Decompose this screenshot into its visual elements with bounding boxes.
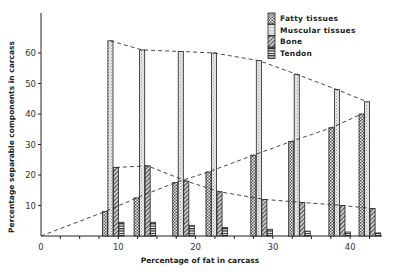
y-tick-label: 60 [25, 48, 36, 58]
y-tick-label: 50 [25, 79, 36, 89]
bar-bone [370, 209, 375, 236]
legend-swatch-fatty-tissues [268, 13, 275, 24]
bar-fatty-tissues [206, 172, 211, 236]
legend-label: Muscular tissues [280, 26, 356, 35]
bar-fatty-tissues [329, 128, 334, 236]
bar-tendon [376, 233, 381, 236]
bar-tendon [119, 222, 124, 236]
x-tick-label: 20 [190, 242, 201, 252]
legend-label: Fatty tissues [280, 14, 339, 23]
x-tick-label: 10 [113, 242, 124, 252]
x-tick-label: 30 [267, 242, 278, 252]
bar-fatty-tissues [102, 212, 107, 236]
bar-muscular-tissues [108, 41, 113, 236]
bar-bone [184, 181, 189, 236]
trend-line-muscular-tissues [110, 41, 367, 102]
bar-tendon [189, 225, 194, 236]
bar-tendon [345, 232, 350, 236]
bar-muscular-tissues [140, 50, 145, 236]
bar-muscular-tissues [178, 51, 183, 236]
legend: Fatty tissuesMuscular tissuesBoneTendon [268, 13, 356, 59]
legend-swatch-bone [268, 36, 275, 47]
bar-muscular-tissues [365, 102, 370, 236]
y-axis-title: Percentage separable components in carca… [7, 41, 16, 233]
bar-bone [300, 202, 305, 236]
x-axis-title: Percentage of fat in carcass [141, 256, 260, 265]
x-tick-label: 40 [345, 242, 356, 252]
trend-line-fatty-tissues [41, 114, 362, 236]
bar-fatty-tissues [289, 141, 294, 236]
bar-muscular-tissues [211, 53, 216, 236]
chart: 102030405060010203040 Fatty tissuesMuscu… [0, 0, 394, 274]
legend-swatch-tendon [268, 48, 275, 59]
bar-muscular-tissues [294, 74, 299, 236]
bar-fatty-tissues [173, 183, 178, 236]
bar-fatty-tissues [134, 198, 139, 236]
bar-fatty-tissues [251, 155, 256, 236]
bar-muscular-tissues [256, 61, 261, 236]
y-tick-label: 40 [25, 109, 36, 119]
legend-swatch-muscular-tissues [268, 25, 275, 36]
bar-tendon [267, 229, 272, 236]
y-tick-label: 30 [25, 140, 36, 150]
legend-label: Bone [280, 37, 303, 46]
plot-area: 102030405060010203040 [25, 13, 382, 252]
bar-bone [340, 206, 345, 237]
bar-tendon [151, 222, 156, 236]
x-tick-label: 0 [38, 242, 43, 252]
bar-muscular-tissues [334, 90, 339, 236]
legend-label: Tendon [280, 49, 312, 58]
y-tick-label: 10 [25, 201, 36, 211]
bar-bone [262, 199, 267, 236]
bar-bone [217, 192, 222, 236]
bar-tendon [222, 227, 227, 236]
bar-fatty-tissues [359, 114, 364, 236]
bar-bone [113, 167, 118, 236]
bar-tendon [305, 231, 310, 236]
y-tick-label: 20 [25, 170, 36, 180]
bar-bone [145, 166, 150, 236]
